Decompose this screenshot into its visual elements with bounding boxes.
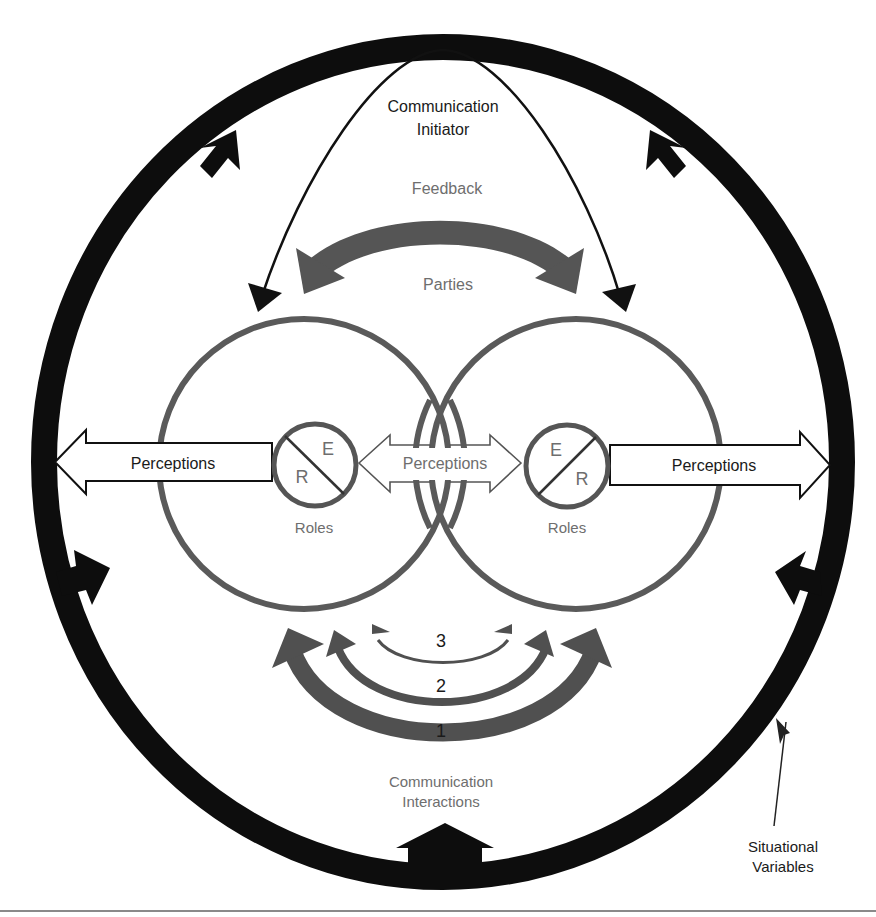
arrowhead-icon [524,630,554,657]
role-circle-left [274,424,356,506]
interaction-3-label: 3 [436,631,446,651]
role-right-e: E [550,440,562,460]
interaction-1-label: 1 [436,721,446,741]
interactions-label-line2: Interactions [402,793,480,810]
situational-label-line2: Variables [752,858,813,875]
interactions-label-line1: Communication [389,773,493,790]
role-left-r: R [296,467,309,487]
inward-arrow-icon [396,823,494,866]
initiator-label-line1: Communication [387,98,498,115]
communication-model-diagram: Communication Initiator Feedback Parties… [0,0,876,917]
initiator-label-line2: Initiator [417,121,470,138]
arrowhead-icon [602,284,636,312]
interaction-2-label: 2 [436,676,446,696]
arrowhead-icon [494,624,512,634]
feedback-label: Feedback [412,180,483,197]
perceptions-right-label: Perceptions [672,457,757,474]
role-circle-right [526,425,608,507]
role-left-e: E [322,439,334,459]
perceptions-center-label: Perceptions [403,455,488,472]
parties-label: Parties [423,276,473,293]
situational-leader [774,718,790,826]
perceptions-left-label: Perceptions [131,455,216,472]
roles-right-label: Roles [548,519,586,536]
role-right-r: R [576,469,589,489]
roles-left-label: Roles [295,519,333,536]
situational-label-line1: Situational [748,838,818,855]
arrowhead-icon [372,624,390,634]
